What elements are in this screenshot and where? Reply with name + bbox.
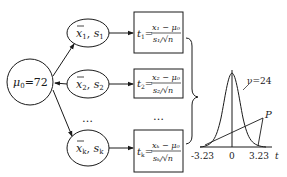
svg-text:xₖ − μ₀: xₖ − μ₀: [152, 141, 180, 150]
svg-text:x1, s1: x1, s1: [76, 27, 104, 41]
arrow-to-sample-1: [53, 44, 74, 76]
sample-node-1: x1, s1: [67, 19, 109, 47]
tick-pos: 3.23: [249, 151, 269, 161]
formula-box-2: t2= x₂ − μ₀ s₂/√n: [134, 69, 183, 98]
svg-text:tk=: tk=: [137, 146, 153, 158]
svg-text:t2=: t2=: [137, 78, 153, 90]
svg-text:x2, s2: x2, s2: [76, 78, 104, 92]
df-label: ν=24: [247, 76, 272, 86]
tick-neg: -3.23: [191, 151, 214, 161]
formula-box-k: tk= xₖ − μ₀ sₖ/√n: [134, 130, 183, 172]
grouping-brace: [186, 38, 198, 144]
ellipsis-formulas: …: [153, 110, 164, 123]
formula-box-1: t1= x₁ − μ₀ s₁/√n: [134, 12, 183, 53]
axis-label-t: t: [275, 151, 279, 161]
svg-text:x₂ − μ₀: x₂ − μ₀: [152, 73, 181, 82]
svg-text:s₂/√n: s₂/√n: [153, 86, 173, 95]
svg-text:xk, sk: xk, sk: [76, 142, 104, 156]
mu-symbol: μ: [13, 76, 20, 89]
arrow-to-sample-k: [53, 90, 72, 136]
svg-text:s₁/√n: s₁/√n: [153, 35, 173, 44]
tick-zero: 0: [229, 151, 235, 161]
svg-text:t1=: t1=: [137, 28, 153, 40]
svg-text:sₖ/√n: sₖ/√n: [153, 154, 173, 163]
population-node: μ0=72: [7, 59, 53, 105]
sample-node-k: xk, sk: [67, 130, 109, 166]
p-line-right: [258, 118, 263, 146]
p-line-left: [205, 118, 263, 145]
svg-text:x₁ − μ₀: x₁ − μ₀: [152, 23, 181, 32]
svg-text:μ0=72: μ0=72: [13, 76, 48, 90]
p-label: P: [264, 109, 272, 120]
sampling-distribution-diagram: μ0=72 x1, s1 x2, s2 … xk, sk t1= x₁ − μ₀…: [0, 0, 287, 177]
arrow-sample-2: [55, 83, 67, 84]
sample-node-2: x2, s2: [67, 70, 109, 98]
t-distribution-plot: ν=24 P -3.23 0 3.23 t: [191, 70, 279, 161]
ellipsis-samples: …: [82, 112, 93, 125]
